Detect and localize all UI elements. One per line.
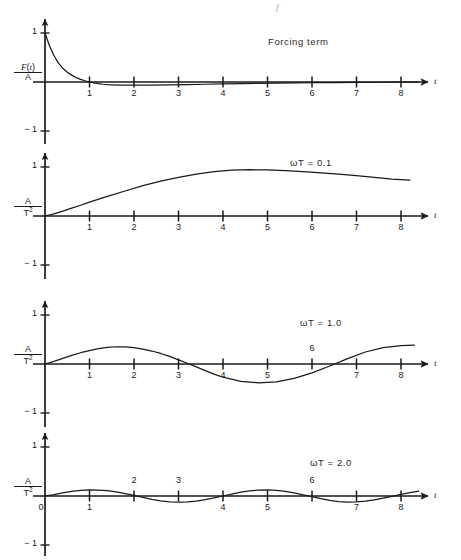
x-tick-label: 6	[303, 344, 321, 353]
x-tick-label: 7	[348, 503, 366, 512]
stray-mark-glyph: f	[276, 2, 279, 12]
x-tick-label: 1	[81, 503, 99, 512]
y-tick-label: − 1	[19, 125, 37, 134]
y-axis-label: AT2	[14, 477, 42, 499]
y-axis-label-denominator: A	[14, 73, 42, 82]
y-axis-label-denominator: T2	[14, 207, 42, 218]
x-tick-label: 2	[125, 476, 143, 485]
x-tick-label: 5	[259, 223, 277, 232]
x-tick-label: 1	[81, 89, 99, 98]
x-tick-label: 8	[392, 223, 410, 232]
x-tick-label: 2	[125, 371, 143, 380]
plot-canvas	[0, 18, 461, 144]
plot-canvas	[0, 152, 461, 292]
x-tick-label: 5	[259, 503, 277, 512]
y-tick-label: 1	[19, 27, 37, 36]
y-tick-label: − 1	[19, 259, 37, 268]
panel-caption: Forcing term	[268, 36, 329, 47]
data-curve	[45, 33, 419, 85]
plot-canvas	[0, 300, 461, 428]
y-axis-label-denominator: T2	[14, 355, 42, 366]
panel-caption: ωT = 1.0	[300, 317, 342, 328]
x-tick-label: 7	[348, 89, 366, 98]
y-axis-label-denominator: T2	[14, 487, 42, 498]
x-tick-label: 1	[81, 223, 99, 232]
x-axis-name: t	[434, 76, 437, 86]
x-tick-label: 6	[303, 476, 321, 485]
x-tick-label: 8	[392, 89, 410, 98]
panel-caption: ωT = 2.0	[310, 457, 352, 468]
y-axis-label: F(t)A	[14, 63, 42, 83]
x-tick-label: 4	[214, 371, 232, 380]
x-tick-label: 3	[170, 371, 188, 380]
x-tick-label: 8	[392, 371, 410, 380]
data-curve	[45, 170, 410, 216]
y-axis-label: AT2	[14, 345, 42, 367]
x-axis-name: t	[434, 490, 437, 500]
x-tick-label: 4	[214, 503, 232, 512]
plot-panel-omega-t-1-0: ωT = 1.0AT21− 112345678t	[0, 300, 461, 428]
y-tick-label: − 1	[19, 539, 37, 548]
x-tick-label: 5	[259, 371, 277, 380]
panel-caption: ωT = 0.1	[290, 157, 332, 168]
y-axis-label: AT2	[14, 197, 42, 219]
x-tick-label: 7	[348, 371, 366, 380]
x-zero-label: 0	[34, 503, 48, 512]
x-tick-label: 7	[348, 223, 366, 232]
x-tick-label: 4	[214, 89, 232, 98]
y-tick-label: − 1	[19, 407, 37, 416]
y-tick-label: 1	[19, 309, 37, 318]
x-tick-label: 4	[214, 223, 232, 232]
x-axis-name: t	[434, 358, 437, 368]
x-tick-label: 3	[170, 476, 188, 485]
figure-root: f Forcing termF(t)A1− 112345678tωT = 0.1…	[0, 0, 461, 560]
x-tick-label: 5	[259, 89, 277, 98]
x-tick-label: 2	[125, 89, 143, 98]
x-tick-label: 6	[303, 223, 321, 232]
plot-panel-omega-t-2-0: ωT = 2.0AT21− 1123456780t	[0, 432, 461, 556]
y-tick-label: 1	[19, 161, 37, 170]
y-tick-label: 1	[19, 441, 37, 450]
plot-canvas	[0, 432, 461, 556]
x-axis-name: t	[434, 210, 437, 220]
x-tick-label: 1	[81, 371, 99, 380]
x-tick-label: 8	[392, 503, 410, 512]
x-tick-label: 6	[303, 89, 321, 98]
plot-panel-forcing-term: Forcing termF(t)A1− 112345678t	[0, 18, 461, 144]
x-tick-label: 3	[170, 89, 188, 98]
x-tick-label: 3	[170, 223, 188, 232]
x-tick-label: 2	[125, 223, 143, 232]
plot-panel-omega-t-0-1: ωT = 0.1AT21− 112345678t	[0, 152, 461, 292]
